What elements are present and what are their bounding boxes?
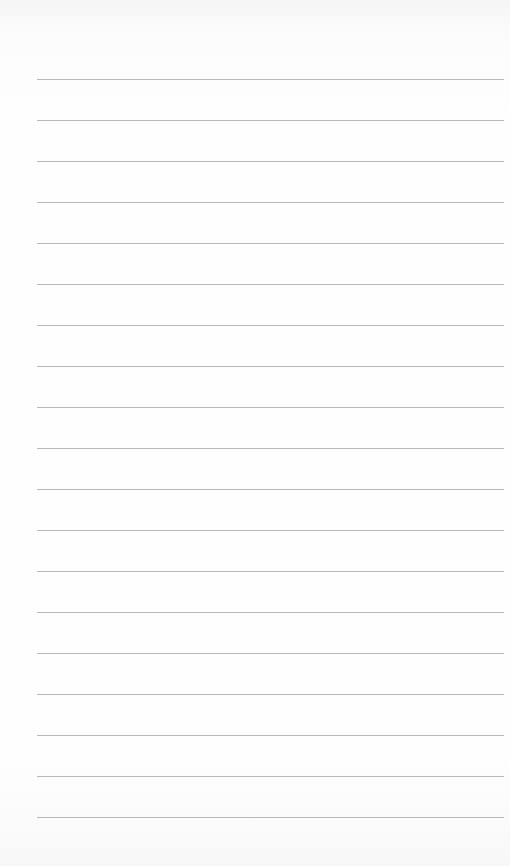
ruled-line bbox=[37, 243, 504, 244]
ruled-line bbox=[37, 202, 504, 203]
ruled-line bbox=[37, 325, 504, 326]
lined-paper-sheet bbox=[0, 0, 510, 866]
ruled-line bbox=[37, 284, 504, 285]
ruled-line bbox=[37, 612, 504, 613]
ruled-line bbox=[37, 817, 504, 818]
ruled-line bbox=[37, 735, 504, 736]
ruled-line bbox=[37, 653, 504, 654]
ruled-line bbox=[37, 489, 504, 490]
ruled-line bbox=[37, 161, 504, 162]
ruled-line bbox=[37, 79, 504, 80]
ruled-line bbox=[37, 120, 504, 121]
ruled-line bbox=[37, 407, 504, 408]
ruled-line bbox=[37, 366, 504, 367]
ruled-line bbox=[37, 776, 504, 777]
ruled-line bbox=[37, 571, 504, 572]
ruled-line bbox=[37, 530, 504, 531]
ruled-line bbox=[37, 694, 504, 695]
ruled-line bbox=[37, 448, 504, 449]
